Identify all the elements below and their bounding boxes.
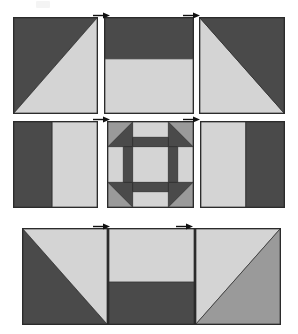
dark-band-top — [105, 18, 193, 59]
seam-arrow-r1-b — [183, 12, 200, 19]
light-bar-left — [201, 122, 246, 207]
bar-top-dark — [133, 137, 169, 146]
bar-left-dark — [123, 147, 132, 183]
seam-arrow-r3-a — [93, 223, 110, 230]
arrow-head-icon — [103, 116, 110, 122]
seam-arrow-r2-b — [183, 116, 200, 123]
block-r2c3-two-bar[interactable] — [200, 121, 285, 208]
light-bar-right — [52, 122, 97, 207]
arrow-head-icon — [186, 223, 193, 229]
quilt-assembly-diagram — [0, 0, 298, 334]
arrow-head-icon — [103, 12, 110, 18]
bar-bottom-light — [133, 192, 169, 207]
block-r3c3-half-square-triangle[interactable] — [195, 228, 281, 325]
dark-bar-right — [246, 122, 284, 207]
arrow-head-icon — [193, 116, 200, 122]
block-r3c1-half-square-triangle[interactable] — [22, 228, 108, 325]
center-square — [133, 147, 169, 183]
bar-bottom-dark — [133, 182, 169, 191]
bar-top-light — [133, 122, 169, 137]
light-band-bottom — [105, 59, 193, 113]
light-band-top — [109, 229, 194, 282]
seam-arrow-r2-a — [93, 116, 110, 123]
arrow-head-icon — [193, 12, 200, 18]
dark-band-bottom — [109, 282, 194, 324]
seam-arrow-r1-a — [93, 12, 110, 19]
bar-right-dark — [168, 147, 177, 183]
seam-arrow-r3-b — [176, 223, 193, 230]
dark-bar-left — [14, 122, 52, 207]
block-r1c1-half-square-triangle[interactable] — [13, 17, 98, 114]
faint-top-mark — [36, 1, 50, 8]
bar-right-light — [178, 147, 193, 183]
arrow-head-icon — [103, 223, 110, 229]
block-r3c2-half-rectangle[interactable] — [108, 228, 195, 325]
block-r2c1-two-bar[interactable] — [13, 121, 98, 208]
bar-left-light — [108, 147, 123, 183]
block-r1c3-half-square-triangle[interactable] — [199, 17, 285, 114]
block-r1c2-half-rectangle[interactable] — [104, 17, 194, 114]
block-r2c2-churn-dash-center[interactable] — [107, 121, 194, 208]
